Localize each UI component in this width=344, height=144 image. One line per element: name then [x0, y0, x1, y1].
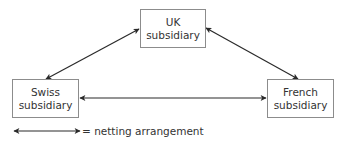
- french-subsidiary-box: French subsidiary: [267, 79, 334, 118]
- swiss-subsidiary-label-line1: Swiss: [31, 86, 60, 99]
- uk-subsidiary-label-line2: subsidiary: [146, 29, 200, 42]
- arrow-swiss-uk: [46, 29, 139, 79]
- french-subsidiary-label-line1: French: [283, 86, 318, 99]
- french-subsidiary-label-line2: subsidiary: [274, 99, 328, 112]
- swiss-subsidiary-label-line2: subsidiary: [19, 99, 73, 112]
- uk-subsidiary-label-line1: UK: [166, 16, 181, 29]
- arrow-uk-french: [206, 28, 298, 79]
- netting-diagram: UK subsidiary Swiss subsidiary French su…: [0, 0, 344, 144]
- legend-text: = netting arrangement: [82, 124, 204, 138]
- uk-subsidiary-box: UK subsidiary: [140, 9, 206, 48]
- swiss-subsidiary-box: Swiss subsidiary: [12, 79, 79, 118]
